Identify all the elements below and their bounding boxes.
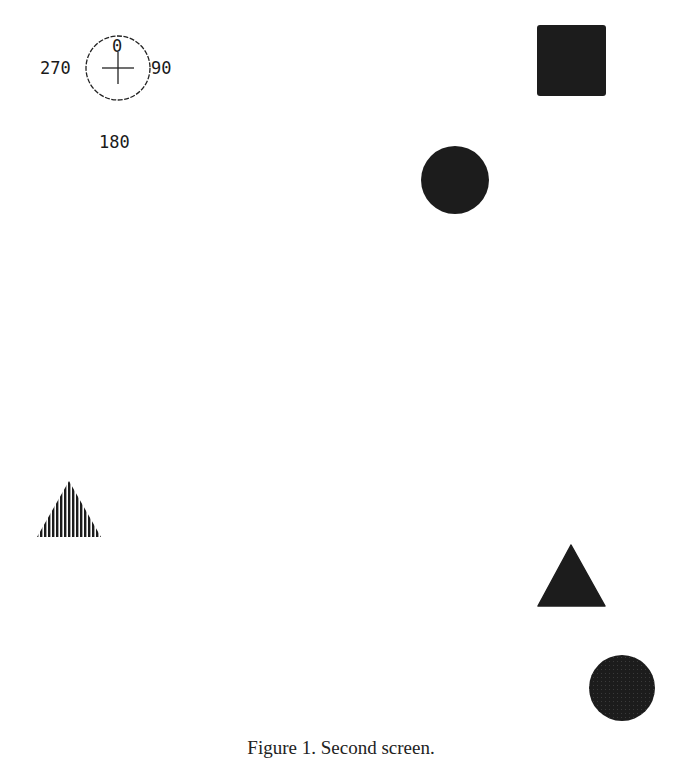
solid-triangle [538, 545, 605, 606]
compass-label-0: 0 [112, 38, 122, 55]
figure-caption: Figure 1. Second screen. [0, 737, 682, 759]
compass-label-270: 270 [40, 60, 71, 77]
textured-circle-bottom [589, 655, 655, 721]
solid-circle-top [421, 146, 489, 214]
hatched-triangle [37, 481, 101, 537]
solid-square [537, 25, 606, 96]
compass-label-180: 180 [99, 134, 130, 151]
compass-label-90: 90 [151, 60, 171, 77]
